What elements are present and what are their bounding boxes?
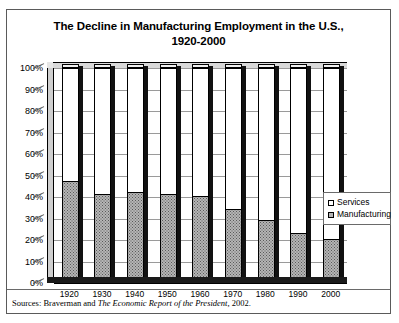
bar-segment-services[interactable] <box>127 68 144 193</box>
legend-item-manufacturing[interactable]: Manufacturing <box>328 209 386 220</box>
bar-segment-services[interactable] <box>94 68 111 195</box>
bar-top-cap <box>127 64 144 68</box>
x-axis-tick-label: 1980 <box>256 289 275 299</box>
bar-side-face <box>111 66 115 280</box>
stacked-bar[interactable] <box>192 68 209 282</box>
stacked-bar[interactable] <box>62 68 79 282</box>
legend-swatch-services-icon <box>328 200 334 206</box>
bar-top-cap <box>160 64 177 68</box>
chart-title-line-2: 1920-2000 <box>7 34 390 49</box>
bar-slot <box>185 68 218 282</box>
bar-slot <box>54 68 87 282</box>
bar-slot <box>315 68 348 282</box>
chart-legend: ServicesManufacturing <box>323 192 391 225</box>
bar-side-face <box>79 66 83 280</box>
plot-floor <box>47 277 347 283</box>
x-axis-tick-label: 1990 <box>289 289 308 299</box>
bar-slot <box>152 68 185 282</box>
stacked-bar[interactable] <box>258 68 275 282</box>
bar-top-cap <box>94 64 111 68</box>
bar-segment-services[interactable] <box>225 68 242 210</box>
chart-figure: The Decline in Manufacturing Employment … <box>6 9 391 314</box>
bar-segment-manufacturing[interactable] <box>127 192 144 282</box>
stacked-bar[interactable] <box>323 68 340 282</box>
bar-slot <box>87 68 120 282</box>
stacked-bar[interactable] <box>94 68 111 282</box>
bar-segment-services[interactable] <box>258 68 275 221</box>
bar-top-cap <box>323 64 340 68</box>
source-note: Sources: Braverman and The Economic Repo… <box>12 298 251 308</box>
bar-segment-services[interactable] <box>160 68 177 195</box>
bar-segment-manufacturing[interactable] <box>62 181 79 282</box>
bar-segment-manufacturing[interactable] <box>323 239 340 282</box>
bar-slot <box>283 68 316 282</box>
bar-slot <box>119 68 152 282</box>
bar-segment-manufacturing[interactable] <box>192 196 209 282</box>
bar-segment-services[interactable] <box>192 68 209 197</box>
bar-side-face <box>177 66 181 280</box>
source-italic-title: The Economic Report of the President <box>98 298 228 308</box>
bar-side-face <box>242 66 246 280</box>
bar-top-cap <box>192 64 209 68</box>
bar-side-face <box>209 66 213 280</box>
bar-side-face <box>144 66 148 280</box>
bar-top-cap <box>258 64 275 68</box>
bar-top-cap <box>225 64 242 68</box>
bar-side-face <box>275 66 279 280</box>
y-axis-tick-labels: 0%10%20%30%40%50%60%70%80%90%100% <box>7 62 45 289</box>
bar-slot <box>250 68 283 282</box>
bar-segment-manufacturing[interactable] <box>94 194 111 282</box>
plot-area <box>47 62 347 283</box>
bar-top-cap <box>62 64 79 68</box>
legend-swatch-manufacturing-icon <box>328 212 334 218</box>
bar-segment-manufacturing[interactable] <box>225 209 242 282</box>
source-prefix: Sources: Braverman and <box>12 298 98 308</box>
stacked-bar[interactable] <box>160 68 177 282</box>
stacked-bar[interactable] <box>127 68 144 282</box>
bar-segment-manufacturing[interactable] <box>160 194 177 282</box>
stacked-bar[interactable] <box>290 68 307 282</box>
gridline <box>54 283 347 284</box>
legend-item-services[interactable]: Services <box>328 197 386 208</box>
bar-top-cap <box>290 64 307 68</box>
bar-segment-manufacturing[interactable] <box>290 233 307 282</box>
legend-label: Manufacturing <box>337 209 391 220</box>
bar-segment-manufacturing[interactable] <box>258 220 275 282</box>
x-axis-tick-label: 2000 <box>321 289 340 299</box>
plot-canvas <box>53 68 347 283</box>
source-suffix: , 2002. <box>227 298 250 308</box>
bar-segment-services[interactable] <box>290 68 307 234</box>
source-divider <box>7 289 390 290</box>
bar-slot <box>217 68 250 282</box>
legend-label: Services <box>337 197 370 208</box>
chart-title: The Decline in Manufacturing Employment … <box>7 19 390 49</box>
chart-title-line-1: The Decline in Manufacturing Employment … <box>54 20 344 32</box>
bar-side-face <box>307 66 311 280</box>
stacked-bar[interactable] <box>225 68 242 282</box>
bar-segment-services[interactable] <box>62 68 79 182</box>
bar-side-face <box>340 66 344 280</box>
